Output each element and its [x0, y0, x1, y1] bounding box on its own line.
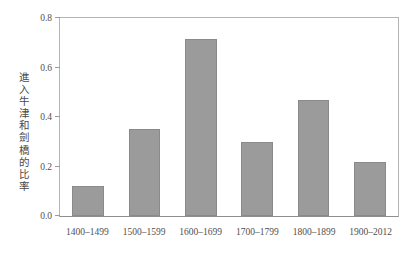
y-axis-tick-label-2: 0.4	[40, 112, 52, 122]
bar-slot	[342, 18, 398, 216]
x-axis-tick-labels: 1400–1499 1500–1599 1600–1699 1700–1799 …	[59, 221, 399, 243]
x-axis-tick-label: 1600–1699	[179, 227, 222, 237]
x-axis-tick-label: 1800–1899	[293, 227, 336, 237]
y-axis-title: 進入牛津和劍橋的比率	[10, 40, 36, 225]
x-axis-tick-label: 1900–2012	[349, 227, 392, 237]
x-axis-tick-slot: 1900–2012	[342, 221, 399, 239]
y-axis-tick-label-0: 0.0	[40, 211, 52, 221]
plot-area: 0.0 0.2 0.4 0.6 0.8	[60, 18, 398, 216]
y-axis-tick-label-1: 0.2	[40, 162, 52, 172]
bar-slot	[116, 18, 172, 216]
y-axis-title-text: 進入牛津和劍橋的比率	[17, 72, 29, 193]
x-axis-tick-label: 1500–1599	[123, 227, 166, 237]
bar[interactable]	[241, 142, 273, 216]
x-axis-tick-slot: 1400–1499	[59, 221, 116, 239]
bar[interactable]	[354, 162, 386, 216]
bar[interactable]	[185, 39, 217, 216]
bar-slot	[60, 18, 116, 216]
x-axis-tick-label: 1400–1499	[66, 227, 109, 237]
plot-frame: 0.0 0.2 0.4 0.6 0.8	[59, 17, 399, 217]
bar-slot	[173, 18, 229, 216]
y-axis-tick-label-3: 0.6	[40, 63, 52, 73]
bar-chart-figure: 進入牛津和劍橋的比率 0.0 0.2 0.4 0.6 0.8	[0, 0, 413, 267]
x-axis-tick-label: 1700–1799	[236, 227, 279, 237]
x-axis-tick-slot: 1500–1599	[116, 221, 173, 239]
x-axis-tick-slot: 1700–1799	[229, 221, 286, 239]
bar[interactable]	[298, 100, 330, 216]
bar-slot	[285, 18, 341, 216]
x-axis-tick-slot: 1600–1699	[172, 221, 229, 239]
bar-slot	[229, 18, 285, 216]
bar-series	[60, 18, 398, 216]
y-axis-tick-label-4: 0.8	[40, 13, 52, 23]
bar[interactable]	[129, 129, 161, 216]
bar[interactable]	[72, 186, 104, 216]
x-axis-tick-slot: 1800–1899	[286, 221, 343, 239]
